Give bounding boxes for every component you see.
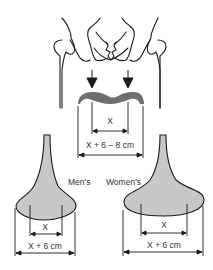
arrow-down-icon: [123, 78, 133, 88]
sit-bone-imprint: [78, 92, 144, 104]
pelvis-x-label: X: [107, 116, 113, 126]
mens-saddle: [16, 135, 76, 220]
womens-saddle: [124, 135, 204, 216]
womens-x-label: X: [161, 220, 167, 230]
arrow-down-icon: [87, 78, 97, 88]
mens-width-label: X + 6 cm: [28, 241, 62, 251]
pelvis-width-label: X + 6 – 8 cm: [86, 140, 134, 150]
mens-saddle-label: Men's: [68, 177, 90, 187]
mens-x-label: X: [42, 222, 48, 232]
womens-saddle-label: Women's: [106, 177, 141, 187]
pressure-arrows: [87, 70, 133, 88]
saddle-diagram: X X + 6 – 8 cm X X + 6 cm Men's X X + 6 …: [0, 0, 213, 270]
womens-width-label: X + 6 cm: [147, 240, 181, 250]
pelvis-illustration: [54, 18, 166, 108]
